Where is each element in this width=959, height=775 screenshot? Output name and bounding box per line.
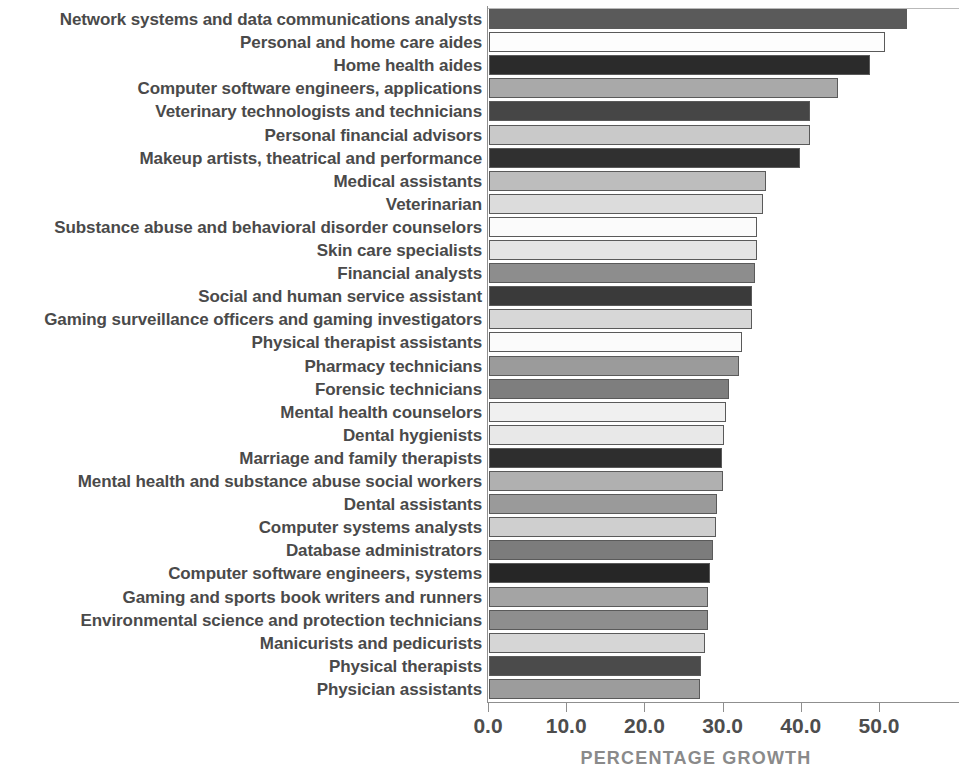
bar-row: Pharmacy technicians [0, 355, 959, 378]
bar [489, 471, 723, 491]
bar-category-label: Makeup artists, theatrical and performan… [139, 147, 482, 170]
bar [489, 379, 729, 399]
bar-row: Home health aides [0, 54, 959, 77]
bar-category-label: Database administrators [286, 539, 482, 562]
bar-category-label: Personal financial advisors [265, 124, 482, 147]
bar [489, 78, 838, 98]
bar-row: Manicurists and pedicurists [0, 632, 959, 655]
percentage-growth-bar-chart: Network systems and data communications … [0, 0, 959, 775]
bar-row: Computer software engineers, systems [0, 562, 959, 585]
bar [489, 356, 739, 376]
bar-category-label: Physician assistants [317, 678, 482, 701]
bar-category-label: Medical assistants [334, 170, 482, 193]
bar [489, 610, 708, 630]
x-axis-tick-label: 30.0 [683, 714, 763, 738]
bar-category-label: Veterinarian [386, 193, 482, 216]
bar-row: Marriage and family therapists [0, 447, 959, 470]
bar-category-label: Computer software engineers, systems [168, 562, 482, 585]
bar-row: Substance abuse and behavioral disorder … [0, 216, 959, 239]
bar [489, 425, 724, 445]
bar-row: Dental hygienists [0, 424, 959, 447]
bar-category-label: Gaming and sports book writers and runne… [123, 586, 482, 609]
bar-category-label: Manicurists and pedicurists [260, 632, 482, 655]
x-axis-tick [723, 703, 724, 712]
bar-row: Network systems and data communications … [0, 8, 959, 31]
bar-row: Physical therapists [0, 655, 959, 678]
bar-category-label: Computer software engineers, application… [138, 77, 482, 100]
bar [489, 286, 752, 306]
bar-row: Mental health counselors [0, 401, 959, 424]
x-axis-tick [488, 703, 489, 712]
bar [489, 332, 742, 352]
bar [489, 148, 800, 168]
bar [489, 540, 713, 560]
bar-category-label: Pharmacy technicians [304, 355, 482, 378]
x-axis-tick [801, 703, 802, 712]
x-axis-tick-label: 50.0 [839, 714, 919, 738]
bar-category-label: Dental assistants [344, 493, 482, 516]
x-axis-tick [879, 703, 880, 712]
bar [489, 402, 726, 422]
bar [489, 633, 705, 653]
bar-row: Skin care specialists [0, 239, 959, 262]
bar [489, 171, 766, 191]
bar-category-label: Personal and home care aides [240, 31, 482, 54]
bar-category-label: Mental health and substance abuse social… [78, 470, 482, 493]
bar-category-label: Social and human service assistant [198, 285, 482, 308]
bar-category-label: Environmental science and protection tec… [81, 609, 482, 632]
bar-category-label: Physical therapist assistants [252, 331, 483, 354]
bar [489, 263, 755, 283]
x-axis-title: PERCENTAGE GROWTH [487, 748, 905, 769]
bar-row: Physician assistants [0, 678, 959, 701]
bar-row: Dental assistants [0, 493, 959, 516]
bar [489, 494, 717, 514]
bar-row: Veterinarian [0, 193, 959, 216]
bar-row: Physical therapist assistants [0, 331, 959, 354]
bar-row: Makeup artists, theatrical and performan… [0, 147, 959, 170]
bar-category-label: Network systems and data communications … [60, 8, 482, 31]
bar-row: Computer systems analysts [0, 516, 959, 539]
bar-row: Veterinary technologists and technicians [0, 100, 959, 123]
bar-category-label: Computer systems analysts [259, 516, 482, 539]
bar [489, 55, 870, 75]
bar-row: Environmental science and protection tec… [0, 609, 959, 632]
bar [489, 101, 810, 121]
x-axis-tick [566, 703, 567, 712]
bar [489, 9, 907, 29]
bar-row: Gaming surveillance officers and gaming … [0, 308, 959, 331]
bar-category-label: Gaming surveillance officers and gaming … [44, 308, 482, 331]
bar [489, 125, 810, 145]
x-axis-tick-label: 0.0 [448, 714, 528, 738]
bar-row: Personal financial advisors [0, 124, 959, 147]
bar [489, 563, 710, 583]
bar [489, 194, 763, 214]
bar-category-label: Financial analysts [337, 262, 482, 285]
bar [489, 32, 885, 52]
bar-row: Forensic technicians [0, 378, 959, 401]
bar [489, 656, 701, 676]
bar-category-label: Mental health counselors [280, 401, 482, 424]
bar-category-label: Physical therapists [329, 655, 482, 678]
bar [489, 309, 752, 329]
bar-row: Personal and home care aides [0, 31, 959, 54]
x-axis-tick-label: 10.0 [526, 714, 606, 738]
bar-row: Computer software engineers, application… [0, 77, 959, 100]
bar-category-label: Home health aides [333, 54, 482, 77]
x-axis-tick [644, 703, 645, 712]
bar-category-label: Veterinary technologists and technicians [155, 100, 482, 123]
bar [489, 517, 716, 537]
bar [489, 587, 708, 607]
bar [489, 448, 722, 468]
x-axis-tick-label: 40.0 [761, 714, 841, 738]
bar-category-label: Forensic technicians [315, 378, 482, 401]
bar-row: Financial analysts [0, 262, 959, 285]
bar-row: Gaming and sports book writers and runne… [0, 586, 959, 609]
bar-row: Medical assistants [0, 170, 959, 193]
bar [489, 217, 757, 237]
bar-row: Database administrators [0, 539, 959, 562]
x-axis-tick-label: 20.0 [604, 714, 684, 738]
bar-category-label: Marriage and family therapists [239, 447, 482, 470]
bar-row: Mental health and substance abuse social… [0, 470, 959, 493]
bar-category-label: Substance abuse and behavioral disorder … [54, 216, 482, 239]
bar-row: Social and human service assistant [0, 285, 959, 308]
